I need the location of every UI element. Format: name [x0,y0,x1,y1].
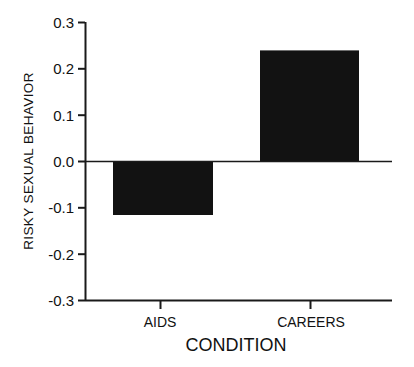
bar-careers [260,50,359,161]
x-category-label-careers: CAREERS [277,314,345,330]
bar-aids [113,162,213,216]
x-axis-title: CONDITION [186,335,287,355]
y-tick-label-6: -0.3 [48,292,74,309]
y-tick-label-4: -0.1 [48,199,74,216]
y-tick-label-5: -0.2 [48,246,74,263]
y-tick-label-0: 0.3 [53,14,74,31]
y-tick-label-1: 0.2 [53,60,74,77]
y-tick-label-2: 0.1 [53,107,74,124]
chart-canvas: 0.3 0.2 0.1 0.0 -0.1 -0.2 -0.3 AIDS CARE… [0,0,414,367]
y-tick-label-3: 0.0 [53,153,74,170]
bar-chart-figure: 0.3 0.2 0.1 0.0 -0.1 -0.2 -0.3 AIDS CARE… [0,0,414,367]
y-axis-title: RISKY SEXUAL BEHAVIOR [21,72,36,250]
x-category-label-aids: AIDS [144,314,177,330]
